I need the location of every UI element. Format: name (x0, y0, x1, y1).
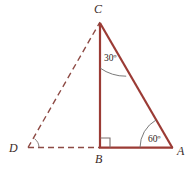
diagram-canvas (0, 0, 194, 173)
vertex-label-A: A (177, 145, 184, 157)
angle-tick-D (35, 139, 39, 148)
vertex-label-D: D (9, 142, 18, 154)
vertex-label-B: B (95, 153, 102, 165)
geometry-diagram: C B A D 30º 60º (0, 0, 194, 173)
angle-label-30-degrees: 30º (104, 54, 116, 64)
vertex-label-C: C (94, 3, 102, 15)
right-angle-marker-B (101, 138, 111, 148)
angle-arc-C (100, 68, 126, 76)
segment-DC (28, 22, 100, 148)
segment-CA (100, 23, 173, 148)
angle-label-60-degrees: 60º (148, 135, 160, 145)
